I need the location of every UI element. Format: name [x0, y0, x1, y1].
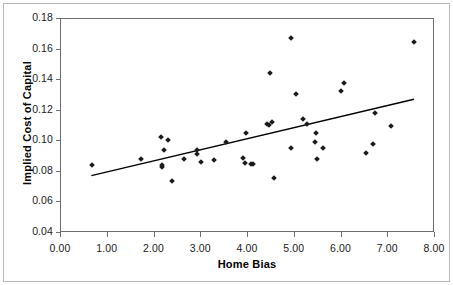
x-axis-tick-mark — [341, 232, 342, 237]
x-axis-tick-label: 5.00 — [274, 242, 314, 254]
y-axis-tick-label: 0.08 — [32, 164, 53, 176]
trendline — [61, 19, 435, 233]
x-axis-tick-label: 7.00 — [367, 242, 407, 254]
x-axis-tick-label: 8.00 — [414, 242, 453, 254]
x-axis-tick-mark — [247, 232, 248, 237]
y-axis-tick-label: 0.10 — [32, 133, 53, 145]
x-axis-tick-label: 1.00 — [87, 242, 127, 254]
x-axis-tick-label: 0.00 — [40, 242, 80, 254]
x-axis-tick-label: 2.00 — [134, 242, 174, 254]
y-axis-tick-label: 0.12 — [32, 103, 53, 115]
x-axis-tick-mark — [60, 232, 61, 237]
x-axis-tick-mark — [107, 232, 108, 237]
y-axis-tick-label: 0.14 — [32, 72, 53, 84]
plot-area-inner — [61, 19, 433, 231]
x-axis-tick-label: 3.00 — [180, 242, 220, 254]
y-axis-title: Implied Cost of Capital — [21, 33, 33, 213]
x-axis-tick-mark — [434, 232, 435, 237]
y-axis-tick-label: 0.04 — [32, 225, 53, 237]
x-axis-tick-mark — [200, 232, 201, 237]
x-axis-tick-mark — [294, 232, 295, 237]
x-axis-title: Home Bias — [60, 258, 434, 270]
x-axis-tick-label: 6.00 — [321, 242, 361, 254]
plot-area-frame — [60, 18, 434, 232]
y-axis-tick-label: 0.18 — [32, 11, 53, 23]
scatter-chart-figure: 0.040.060.080.100.120.140.160.18 0.001.0… — [0, 0, 453, 285]
x-axis-tick-mark — [154, 232, 155, 237]
x-axis-tick-label: 4.00 — [227, 242, 267, 254]
y-axis-tick-label: 0.06 — [32, 194, 53, 206]
x-axis-tick-mark — [387, 232, 388, 237]
y-axis-tick-label: 0.16 — [32, 42, 53, 54]
